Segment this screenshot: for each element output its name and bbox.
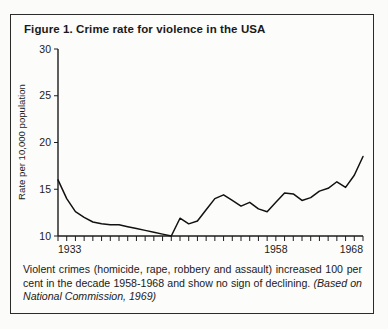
chart-plot-area: 1015202530 193319581968 Rate per 10,000 … bbox=[11, 41, 375, 256]
y-tick-label: 10 bbox=[39, 230, 51, 242]
y-axis-ticks: 1015202530 bbox=[39, 43, 58, 242]
figure-title: Figure 1. Crime rate for violence in the… bbox=[24, 23, 266, 35]
caption-text: Violent crimes (homicide, rape, robbery … bbox=[23, 263, 362, 289]
x-tick-label: 1968 bbox=[340, 243, 364, 255]
chart-axes bbox=[58, 49, 363, 236]
figure-container: Figure 1. Crime rate for violence in the… bbox=[10, 14, 374, 314]
y-tick-label: 30 bbox=[39, 43, 51, 55]
y-tick-label: 15 bbox=[39, 183, 51, 195]
x-tick-label: 1933 bbox=[58, 243, 82, 255]
data-series-line bbox=[58, 157, 363, 236]
y-axis-title: Rate per 10,000 population bbox=[16, 84, 27, 200]
y-tick-label: 20 bbox=[39, 136, 51, 148]
x-tick-label: 1958 bbox=[264, 243, 288, 255]
crime-rate-line-chart: 1015202530 193319581968 Rate per 10,000 … bbox=[11, 41, 375, 256]
x-axis-tick-labels: 193319581968 bbox=[58, 243, 363, 255]
figure-caption: Violent crimes (homicide, rape, robbery … bbox=[23, 263, 362, 304]
y-tick-label: 25 bbox=[39, 89, 51, 101]
x-axis-ticks bbox=[58, 236, 363, 241]
